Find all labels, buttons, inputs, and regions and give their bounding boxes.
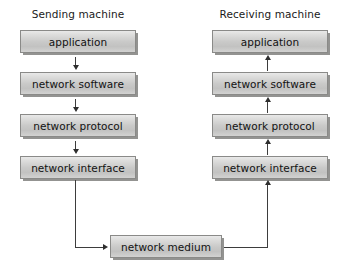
node-sending-network-interface[interactable]: network interface (20, 156, 136, 179)
arrow-down-icon (73, 149, 79, 154)
node-receiving-network-software[interactable]: network software (212, 72, 328, 95)
connector-sending-interface-to-medium-vertical (75, 180, 76, 247)
node-label: network protocol (225, 120, 315, 132)
arrow-up-icon (265, 180, 271, 185)
node-network-medium[interactable]: network medium (110, 235, 222, 258)
arrow-right-icon (103, 244, 108, 250)
node-sending-network-protocol[interactable]: network protocol (20, 114, 136, 137)
node-label: network interface (31, 162, 125, 174)
arrow-down-icon (73, 107, 79, 112)
node-receiving-network-interface[interactable]: network interface (212, 156, 328, 179)
connector-receiving-protocol-to-software (267, 102, 268, 113)
node-receiving-application[interactable]: application (212, 30, 328, 53)
node-label: network interface (223, 162, 317, 174)
node-label: application (49, 36, 107, 48)
column-heading-sending: Sending machine (20, 8, 136, 20)
node-label: network medium (121, 241, 211, 253)
arrow-up-icon (265, 139, 271, 144)
node-sending-application[interactable]: application (20, 30, 136, 53)
node-label: network protocol (33, 120, 123, 132)
node-label: application (241, 36, 299, 48)
connector-medium-to-receiving-interface-horizontal (224, 247, 268, 248)
connector-sending-interface-to-medium-horizontal (75, 247, 103, 248)
node-receiving-network-protocol[interactable]: network protocol (212, 114, 328, 137)
arrow-down-icon (73, 65, 79, 70)
arrow-up-icon (265, 97, 271, 102)
arrow-up-icon (265, 55, 271, 60)
node-label: network software (224, 78, 316, 90)
diagram-canvas: Sending machine Receiving machine applic… (0, 0, 347, 279)
connector-receiving-software-to-application (267, 60, 268, 71)
connector-receiving-interface-to-protocol (267, 144, 268, 155)
node-sending-network-software[interactable]: network software (20, 72, 136, 95)
column-heading-receiving: Receiving machine (212, 8, 328, 20)
connector-medium-to-receiving-interface-vertical (267, 185, 268, 247)
node-label: network software (32, 78, 124, 90)
